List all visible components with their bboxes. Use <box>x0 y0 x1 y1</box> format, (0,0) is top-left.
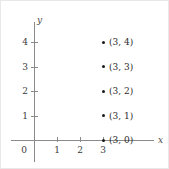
data-point-3-2 <box>102 90 105 93</box>
x-tick-label-1: 1 <box>51 146 63 155</box>
y-tick-label-2: 2 <box>18 87 28 96</box>
x-tick-label-0: 0 <box>18 146 30 155</box>
x-axis-label: x <box>158 136 163 145</box>
y-tick-label-4: 4 <box>18 38 28 47</box>
data-point-label-3-2: (3, 2) <box>109 87 133 96</box>
data-point-label-3-0: (3, 0) <box>109 136 133 145</box>
x-tick-mark-1 <box>57 137 58 142</box>
y-axis-label: y <box>37 16 42 25</box>
x-tick-label-3: 3 <box>97 146 109 155</box>
y-tick-mark-4 <box>31 42 38 43</box>
x-tick-label-2: 2 <box>74 146 86 155</box>
data-point-label-3-4: (3, 4) <box>109 38 133 47</box>
y-tick-mark-3 <box>31 67 38 68</box>
data-point-3-4 <box>102 41 105 44</box>
y-tick-mark-2 <box>31 91 38 92</box>
data-point-label-3-3: (3, 3) <box>109 63 133 72</box>
y-tick-label-3: 3 <box>18 63 28 72</box>
data-point-3-3 <box>102 65 105 68</box>
y-tick-label-1: 1 <box>18 112 28 121</box>
data-point-3-1 <box>102 114 105 117</box>
x-tick-mark-2 <box>80 137 81 142</box>
coordinate-plane-figure: y x 01231234 (3, 4)(3, 3)(3, 2)(3, 1)(3,… <box>0 0 169 169</box>
y-tick-mark-1 <box>31 116 38 117</box>
data-point-label-3-1: (3, 1) <box>109 112 133 121</box>
y-axis-line <box>34 22 35 162</box>
data-point-3-0 <box>102 139 105 142</box>
